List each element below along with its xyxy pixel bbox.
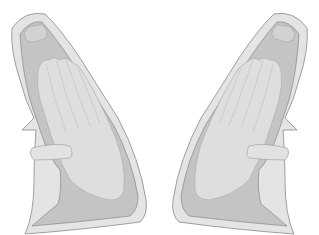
left-panel	[12, 13, 147, 234]
hands-in-sheath-illustration	[0, 0, 319, 235]
illustration-canvas	[0, 0, 319, 235]
right-panel	[173, 13, 308, 234]
